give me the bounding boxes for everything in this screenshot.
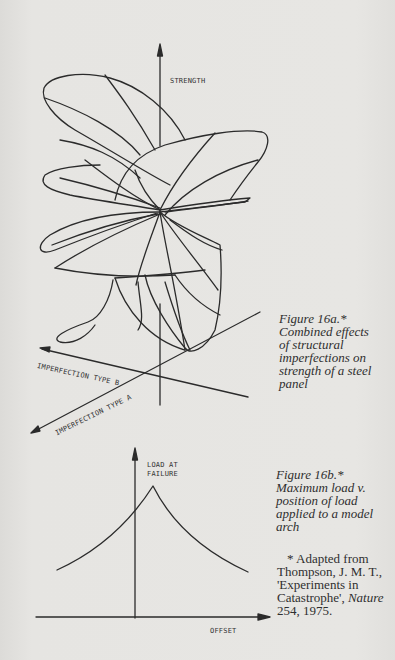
strength-axis-label: STRENGTH	[170, 77, 205, 85]
caption-line: arch	[276, 520, 373, 533]
lower-left-lobe	[40, 212, 175, 276]
book-page: STRENGTH IMPERFECTION TYPE B IMPERFECTIO…	[0, 0, 395, 660]
left-middle-lobe	[43, 160, 160, 210]
offset-axis-label: OFFSET	[210, 627, 237, 635]
y-axis-label-line1: LOAD AT	[147, 461, 178, 470]
y-axis-label-line2: FAILURE	[147, 470, 178, 479]
journal-name: Nature	[348, 590, 384, 605]
caption-line: panel	[279, 377, 371, 390]
load-curve	[57, 486, 248, 572]
footnote-line: 254, 1975.	[277, 604, 384, 617]
figure-16a-caption: Figure 16a.* Combined effects of structu…	[279, 312, 371, 390]
figure-16b-caption: Figure 16b.* Maximum load v. position of…	[276, 468, 373, 533]
load-at-failure-label: LOAD AT FAILURE	[147, 461, 178, 479]
source-footnote: * Adapted from Thompson, J. M. T., 'Expe…	[277, 552, 384, 617]
